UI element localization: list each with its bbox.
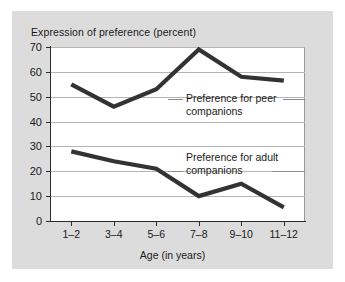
annotation-leader-adult-left xyxy=(168,171,183,172)
x-tick-label: 7–8 xyxy=(190,228,208,240)
annotation-leader-peer-left xyxy=(168,99,183,100)
y-tick-label: 30 xyxy=(8,140,42,152)
gridline xyxy=(50,146,305,147)
y-tick-label: 50 xyxy=(8,91,42,103)
gridline xyxy=(50,196,305,197)
y-tick-label: 0 xyxy=(8,215,42,227)
x-tick-mark xyxy=(71,222,72,226)
annotation-peer-companions: Preference for peer companions xyxy=(186,92,276,118)
x-tick-mark xyxy=(241,222,242,226)
gridline xyxy=(50,72,305,73)
y-tick-label: 60 xyxy=(8,66,42,78)
x-axis-line xyxy=(50,221,306,222)
x-axis-title: Age (in years) xyxy=(0,249,345,261)
gridline xyxy=(50,47,305,48)
x-tick-mark xyxy=(199,222,200,226)
x-tick-mark xyxy=(284,222,285,226)
y-tick-label: 20 xyxy=(8,165,42,177)
chart-title: Expression of preference (percent) xyxy=(31,26,196,38)
y-tick-label: 40 xyxy=(8,116,42,128)
y-axis-line xyxy=(50,46,51,222)
x-tick-label: 3–4 xyxy=(105,228,123,240)
x-tick-mark xyxy=(156,222,157,226)
x-tick-label: 11–12 xyxy=(270,228,298,240)
x-tick-mark xyxy=(114,222,115,226)
x-tick-label: 5–6 xyxy=(147,228,165,240)
y-tick-label: 10 xyxy=(8,190,42,202)
x-tick-label: 9–10 xyxy=(230,228,253,240)
y-tick-label: 70 xyxy=(8,41,42,53)
gridline xyxy=(50,122,305,123)
annotation-adult-companions: Preference for adult companions xyxy=(186,151,278,177)
figure-container: Expression of preference (percent) 01020… xyxy=(0,0,345,282)
plot-area xyxy=(50,47,305,221)
x-tick-label: 1–2 xyxy=(62,228,80,240)
annotation-leader-peer-right xyxy=(283,99,305,100)
